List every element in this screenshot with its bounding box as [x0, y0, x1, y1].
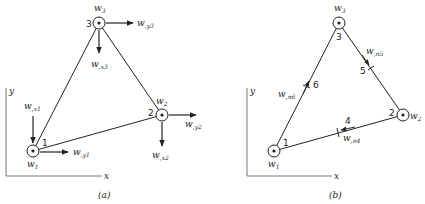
dof-label-y3: w,y3	[137, 18, 154, 30]
dof-label-x3: w,x3	[91, 59, 108, 70]
element-triangle-a	[33, 23, 162, 151]
dof-label-y2: w,y2	[185, 119, 202, 131]
svg-text:w3: w3	[94, 3, 106, 14]
dof-label-x2: w,x2	[152, 150, 169, 161]
svg-text:w2: w2	[156, 96, 168, 107]
svg-text:4: 4	[345, 116, 351, 126]
node-3-a: 3 w3 w,x3 w,y3	[86, 3, 154, 70]
axes-a	[6, 88, 102, 176]
dof-label-y1: w,y1	[73, 147, 90, 159]
svg-text:2: 2	[389, 108, 395, 118]
axes-b	[247, 88, 332, 176]
svg-text:w2: w2	[410, 111, 422, 122]
axis-y-label-a: y	[8, 86, 15, 96]
midside-node-5: 5 w,n5	[360, 46, 383, 76]
svg-text:6: 6	[313, 80, 319, 90]
axis-y-label-b: y	[249, 86, 256, 96]
svg-text:3: 3	[336, 32, 342, 42]
svg-text:w,n5: w,n5	[366, 46, 383, 57]
panel-b: y x 1 w1 2 w2 3 w3 6 w,n6	[247, 3, 422, 200]
svg-text:w1: w1	[27, 159, 39, 170]
svg-text:w3: w3	[334, 3, 346, 14]
node-3-b: 3 w3	[333, 3, 346, 42]
svg-text:w,n4: w,n4	[343, 133, 360, 144]
node-2-b: 2 w2	[389, 108, 422, 122]
caption-a: (a)	[98, 190, 111, 200]
axis-x-label-b: x	[334, 171, 339, 181]
svg-text:1: 1	[283, 138, 289, 148]
node-1-a: 1 w1 w,x1 w,y1	[24, 101, 90, 170]
svg-text:1: 1	[42, 138, 48, 148]
diagram-canvas: y x 1 w1 w,x1 w,y1 2 w2 w,x2 w,y2	[0, 0, 425, 204]
element-triangle-b	[274, 23, 403, 151]
midside-node-6: 6 w,n6	[278, 80, 319, 100]
axis-x-label-a: x	[104, 171, 109, 181]
svg-text:3: 3	[86, 19, 92, 29]
panel-a: y x 1 w1 w,x1 w,y1 2 w2 w,x2 w,y2	[6, 3, 202, 200]
caption-b: (b)	[329, 190, 342, 200]
svg-text:w,n6: w,n6	[278, 89, 295, 100]
svg-text:2: 2	[148, 108, 154, 118]
dof-label-x1: w,x1	[24, 101, 41, 112]
node-2-a: 2 w2 w,x2 w,y2	[148, 96, 202, 161]
svg-text:5: 5	[360, 66, 366, 76]
svg-text:w1: w1	[268, 159, 280, 170]
